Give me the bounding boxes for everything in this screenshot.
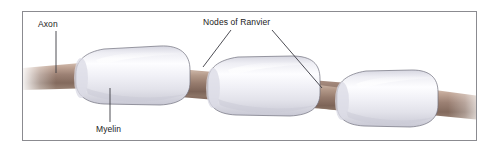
myelin-segment-3 [335, 70, 438, 127]
label-myelin: Myelin [96, 124, 121, 134]
label-nodes-of-ranvier: Nodes of Ranvier [203, 17, 270, 27]
figure-root: Axon Myelin Nodes of Ranvier [0, 0, 494, 152]
myelin-segment-1 [74, 46, 190, 105]
myelin-segment-2 [206, 56, 320, 116]
label-axon: Axon [38, 19, 58, 29]
